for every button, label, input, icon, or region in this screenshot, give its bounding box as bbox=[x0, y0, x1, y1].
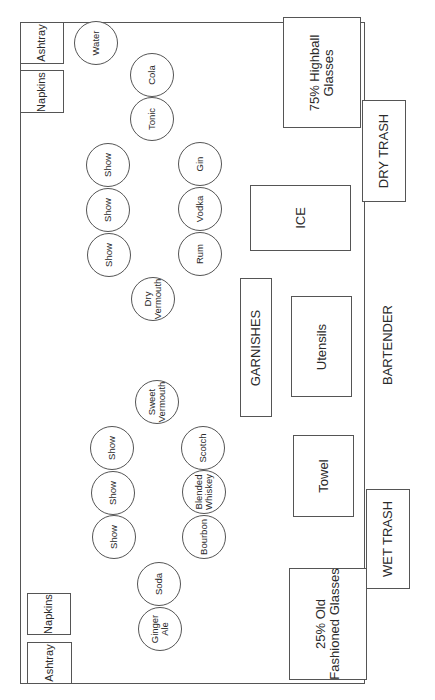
ashtray-bottom-label: Ashtray bbox=[44, 644, 56, 681]
bottle-blended-whiskey: Blended Whiskey bbox=[182, 470, 226, 514]
bottle-water: Water bbox=[74, 21, 118, 65]
bottle-scotch: Scotch bbox=[181, 426, 225, 470]
bottle-show-bottom-3: Show bbox=[92, 515, 136, 559]
ashtray-top: Ashtray bbox=[20, 22, 64, 64]
bottle-show-bottom-1: Show bbox=[90, 426, 134, 470]
ashtray-bottom: Ashtray bbox=[27, 642, 72, 684]
bottle-dry-vermouth: Dry Vermouth bbox=[131, 277, 175, 321]
utensils: Utensils bbox=[291, 296, 352, 397]
bottle-bourbon: Bourbon bbox=[182, 515, 226, 559]
bartender-label: BARTENDER bbox=[381, 305, 395, 385]
wet-trash: WET TRASH bbox=[366, 489, 410, 589]
ashtray-top-label: Ashtray bbox=[36, 24, 48, 61]
bottle-gin: Gin bbox=[178, 142, 222, 186]
highball-glasses: 75% Highball Glasses bbox=[283, 17, 361, 128]
bottle-show-top-2: Show bbox=[86, 188, 130, 232]
bottle-cola: Cola bbox=[130, 53, 174, 97]
bartender-area: BARTENDER bbox=[368, 295, 408, 395]
dry-trash: DRY TRASH bbox=[362, 100, 406, 202]
napkins-bottom-label: Napkins bbox=[43, 594, 55, 634]
bottle-tonic: Tonic bbox=[130, 97, 174, 141]
bottle-ginger-ale: Ginger Ale bbox=[138, 607, 182, 651]
bottle-vodka: Vodka bbox=[178, 187, 222, 231]
bottle-rum: Rum bbox=[178, 232, 222, 276]
napkins-top: Napkins bbox=[20, 70, 64, 113]
towel: Towel bbox=[293, 435, 354, 517]
bottle-show-bottom-2: Show bbox=[91, 471, 135, 515]
bottle-sweet-vermouth: Sweet Vermouth bbox=[135, 380, 179, 424]
bottle-show-top-1: Show bbox=[86, 143, 130, 187]
bottle-show-top-3: Show bbox=[87, 233, 131, 277]
napkins-bottom: Napkins bbox=[27, 593, 71, 635]
napkins-top-label: Napkins bbox=[36, 72, 48, 112]
old-fashioned-glasses: 25% Old Fashioned Glasses bbox=[289, 568, 367, 680]
garnishes-tray: GARNISHES bbox=[240, 278, 272, 417]
ice-bin: ICE bbox=[250, 185, 351, 251]
bottle-soda: Soda bbox=[137, 562, 181, 606]
